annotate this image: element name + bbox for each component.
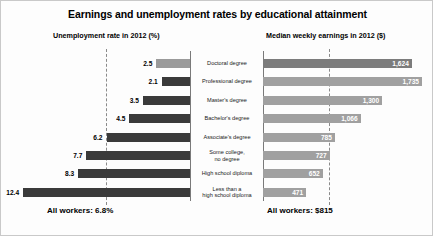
left-axis-header: Unemployment rate in 2012 (%) — [53, 31, 160, 40]
unemployment-bar — [143, 96, 190, 105]
chart-row: 12.4Less than a high school diploma471 — [1, 184, 433, 202]
chart-row: 2.5Doctoral degree1,624 — [1, 55, 433, 73]
unemployment-bar — [78, 169, 190, 178]
unemployment-bar — [23, 188, 190, 197]
chart-title: Earnings and unemployment rates by educa… — [1, 8, 433, 20]
category-label: Some college, no degree — [192, 149, 262, 162]
category-label: Doctoral degree — [192, 60, 262, 67]
right-average-label: All workers: $815 — [267, 206, 333, 215]
earnings-value-label: 1,300 — [350, 96, 379, 105]
unemployment-bar — [156, 59, 190, 68]
category-label: Professional degree — [192, 78, 262, 85]
earnings-value-label: 785 — [303, 133, 332, 142]
chart-frame: Earnings and unemployment rates by educa… — [0, 0, 433, 236]
chart-row: 2.1Professional degree1,735 — [1, 73, 433, 91]
chart-row: 7.7Some college, no degree727 — [1, 147, 433, 165]
earnings-value-label: 652 — [291, 169, 320, 178]
chart-row: 4.5Bachelor's degree1,066 — [1, 110, 433, 128]
left-average-label: All workers: 6.8% — [47, 206, 113, 215]
earnings-value-label: 471 — [274, 188, 303, 197]
unemployment-value-label: 7.7 — [52, 151, 82, 160]
chart-row: 3.5Master's degree1,300 — [1, 92, 433, 110]
earnings-value-label: 1,066 — [329, 114, 358, 123]
category-label: High school diploma — [192, 170, 262, 177]
unemployment-value-label: 12.4 — [0, 188, 19, 197]
category-label: Less than a high school diploma — [192, 186, 262, 199]
unemployment-bar — [107, 133, 190, 142]
category-label: Associate's degree — [192, 134, 262, 141]
unemployment-value-label: 4.5 — [95, 114, 125, 123]
unemployment-value-label: 8.3 — [44, 169, 74, 178]
category-label: Master's degree — [192, 97, 262, 104]
earnings-value-label: 727 — [298, 151, 327, 160]
unemployment-value-label: 2.1 — [128, 77, 158, 86]
earnings-value-label: 1,624 — [380, 59, 409, 68]
chart-row: 8.3High school diploma652 — [1, 165, 433, 183]
chart-plot-area: 2.5Doctoral degree1,6242.1Professional d… — [1, 51, 433, 201]
unemployment-bar — [86, 151, 190, 160]
unemployment-value-label: 3.5 — [109, 96, 139, 105]
unemployment-value-label: 6.2 — [73, 133, 103, 142]
unemployment-bar — [129, 114, 190, 123]
category-label: Bachelor's degree — [192, 115, 262, 122]
right-axis-header: Median weekly earnings in 2012 ($) — [266, 31, 385, 40]
chart-row: 6.2Associate's degree785 — [1, 129, 433, 147]
unemployment-bar — [162, 77, 190, 86]
earnings-value-label: 1,735 — [390, 77, 419, 86]
unemployment-value-label: 2.5 — [122, 59, 152, 68]
